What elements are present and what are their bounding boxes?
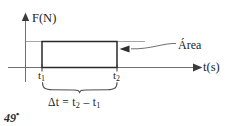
page-number-bullet-icon: • xyxy=(16,109,19,119)
page-number-value: 49 xyxy=(4,111,16,125)
force-time-figure: F(N) t(s) Área t1 t2 Δt = t2 – t1 49• xyxy=(0,0,238,126)
delta-t-brace xyxy=(43,83,118,93)
delta-t-equation: Δt = t2 – t1 xyxy=(48,97,101,110)
area-callout-label: Área xyxy=(178,39,201,51)
y-axis-label: F(N) xyxy=(32,12,56,25)
delta-t-prefix: Δt = t xyxy=(48,96,76,108)
area-rectangle xyxy=(42,42,117,68)
tick-label-t2: t2 xyxy=(113,70,120,83)
delta-t-middle: – t xyxy=(80,96,96,108)
x-axis-label: t(s) xyxy=(203,61,220,74)
delta-t-subscript-b: 1 xyxy=(96,101,100,110)
page-number-marker: 49• xyxy=(4,110,19,124)
tick-label-t2-subscript: 2 xyxy=(116,74,120,83)
y-axis xyxy=(22,13,29,83)
tick-label-t1: t1 xyxy=(38,70,45,83)
tick-label-t1-subscript: 1 xyxy=(41,74,45,83)
area-callout-arrow xyxy=(120,43,177,52)
